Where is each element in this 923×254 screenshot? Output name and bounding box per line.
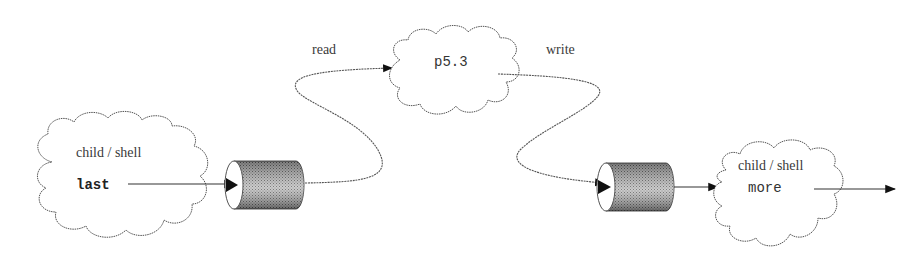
left-process-command: last <box>76 177 110 193</box>
pipeline-diagram: child / shell last read p5.3 write <box>0 0 923 254</box>
left-process-cloud: child / shell last <box>37 111 207 237</box>
pipe-1-cylinder <box>225 161 304 209</box>
center-process-cloud: p5.3 <box>390 26 520 115</box>
write-label: write <box>546 42 575 57</box>
left-process-title: child / shell <box>76 145 141 160</box>
pipe-2-cylinder <box>597 163 674 211</box>
read-label: read <box>312 42 336 57</box>
right-process-title: child / shell <box>738 158 803 173</box>
center-process-label: p5.3 <box>434 54 468 70</box>
write-flow-curve <box>498 74 604 183</box>
right-process-cloud: child / shell more <box>714 140 843 246</box>
read-flow-curve <box>295 68 392 183</box>
right-process-command: more <box>748 180 782 196</box>
